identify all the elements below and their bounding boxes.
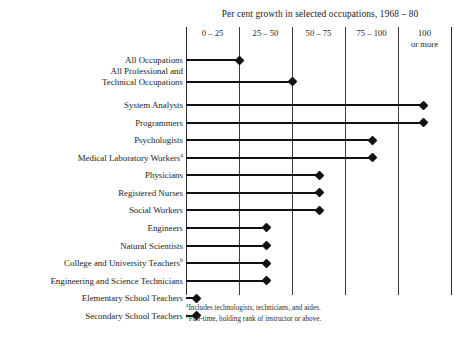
row-label: All Occupations <box>0 55 183 66</box>
row-label: Medical Laboratory Workersa <box>0 153 183 164</box>
row-label: Engineering and Science Technicians <box>0 276 183 287</box>
bar-endpoint-marker <box>368 153 378 163</box>
chart-row: Natural Scientists <box>0 241 454 259</box>
footnote-b: bFull-time, holding rank of instructor o… <box>186 314 454 325</box>
row-label: System Analysts <box>0 100 183 111</box>
footnote-marker: a <box>180 151 183 158</box>
bar-endpoint-marker <box>418 118 428 128</box>
footnote-a: aIncludes technologists, technicians, an… <box>186 303 454 314</box>
row-label: Physicians <box>0 170 183 181</box>
chart-row: Engineers <box>0 223 454 241</box>
bar <box>186 174 320 176</box>
bar-endpoint-marker <box>262 223 272 233</box>
bar <box>186 245 267 247</box>
row-label: Programmers <box>0 118 183 129</box>
bar <box>186 227 267 229</box>
bar <box>186 122 423 124</box>
row-label: Elementary School Teachers <box>0 293 183 304</box>
footnote-marker: b <box>180 256 183 263</box>
bar-endpoint-marker <box>287 77 297 87</box>
chart-row: Psychologists <box>0 135 454 153</box>
rows-layer: All OccupationsAll Professional and Tech… <box>0 0 454 341</box>
chart-row: Programmers <box>0 118 454 136</box>
chart-row: Engineering and Science Technicians <box>0 276 454 294</box>
chart-row: Social Workers <box>0 205 454 223</box>
bar <box>186 262 267 264</box>
bar <box>186 59 239 61</box>
row-label: Engineers <box>0 223 183 234</box>
bar-endpoint-marker <box>192 293 202 303</box>
bar-endpoint-marker <box>418 100 428 110</box>
row-label: Registered Nurses <box>0 188 183 199</box>
chart-row: System Analysts <box>0 100 454 118</box>
chart-row: All Professional and Technical Occupatio… <box>0 77 454 95</box>
chart-figure: Per cent growth in selected occupations,… <box>0 0 454 341</box>
bar-endpoint-marker <box>368 135 378 145</box>
bar-endpoint-marker <box>315 188 325 198</box>
footnotes: aIncludes technologists, technicians, an… <box>186 303 454 325</box>
bar-endpoint-marker <box>262 276 272 286</box>
footnote-text: Includes technologists, technicians, and… <box>188 304 320 312</box>
bar <box>186 209 320 211</box>
bar <box>186 139 373 141</box>
chart-row: Medical Laboratory Workersa <box>0 153 454 171</box>
row-label: Psychologists <box>0 135 183 146</box>
footnote-text: Full-time, holding rank of instructor or… <box>189 315 322 323</box>
bar-endpoint-marker <box>315 205 325 215</box>
bar-endpoint-marker <box>234 55 244 65</box>
bar <box>186 280 267 282</box>
row-label: College and University Teachersb <box>0 258 183 269</box>
chart-row: Registered Nurses <box>0 188 454 206</box>
chart-row: College and University Teachersb <box>0 258 454 276</box>
row-label: Social Workers <box>0 205 183 216</box>
bar-endpoint-marker <box>315 170 325 180</box>
bar <box>186 81 292 83</box>
row-label: Natural Scientists <box>0 241 183 252</box>
row-label: All Professional and Technical Occupatio… <box>0 66 183 87</box>
bar-endpoint-marker <box>262 241 272 251</box>
bar-endpoint-marker <box>262 258 272 268</box>
bar <box>186 192 320 194</box>
bar <box>186 157 373 159</box>
chart-row: Physicians <box>0 170 454 188</box>
bar <box>186 104 423 106</box>
row-label: Secondary School Teachers <box>0 311 183 322</box>
